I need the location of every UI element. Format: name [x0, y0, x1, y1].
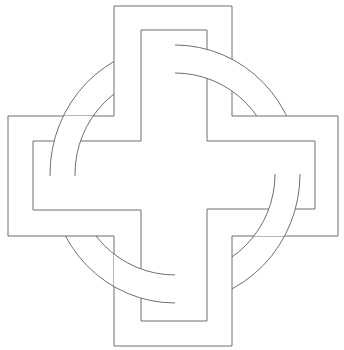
- ring-shape: [50, 45, 300, 303]
- celtic-cross-drawing: [0, 0, 344, 350]
- ring-over-segments: [8, 0, 344, 350]
- ring-inner-outline: [75, 73, 275, 275]
- ring-outer-outline: [50, 45, 300, 303]
